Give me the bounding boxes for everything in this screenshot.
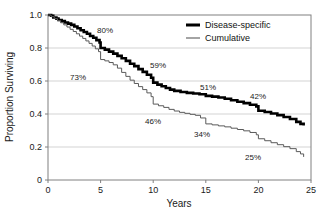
- series-line-cumulative: [48, 15, 304, 157]
- percent-annotation: 34%: [194, 130, 210, 139]
- percent-annotation: 80%: [97, 26, 113, 35]
- legend-label[interactable]: Cumulative: [205, 33, 250, 43]
- y-tick-label: 0.2: [29, 142, 42, 152]
- y-tick-label: 1.0: [29, 10, 42, 20]
- x-tick-label: 5: [98, 185, 103, 195]
- chart-canvas: 00.20.40.60.81.0 0510152025 80%73%59%51%…: [0, 0, 329, 212]
- x-tick-label: 25: [306, 185, 316, 195]
- plot-frame: [48, 15, 311, 180]
- y-axis-ticks: 00.20.40.60.81.0: [29, 10, 48, 185]
- legend-label[interactable]: Disease-specific: [205, 20, 271, 30]
- x-axis-ticks: 0510152025: [45, 180, 316, 195]
- x-tick-label: 0: [45, 185, 50, 195]
- y-tick-label: 0.6: [29, 76, 42, 86]
- y-tick-label: 0.8: [29, 43, 42, 53]
- gridlines: [48, 48, 311, 147]
- y-tick-label: 0.4: [29, 109, 42, 119]
- percent-annotation: 73%: [70, 73, 86, 82]
- x-axis-title: Years: [166, 198, 191, 209]
- x-tick-label: 10: [148, 185, 158, 195]
- percent-annotation: 51%: [200, 83, 216, 92]
- x-tick-label: 20: [253, 185, 263, 195]
- percent-annotation: 25%: [245, 153, 261, 162]
- survival-chart-figure: 00.20.40.60.81.0 0510152025 80%73%59%51%…: [0, 0, 329, 212]
- chart-legend[interactable]: Disease-specificCumulative: [186, 20, 271, 43]
- percent-annotation: 46%: [145, 117, 161, 126]
- y-tick-label: 0: [37, 175, 42, 185]
- percent-annotation: 42%: [250, 92, 266, 101]
- series-lines: [48, 15, 304, 157]
- y-axis-title: Proportion Surviving: [4, 52, 15, 142]
- x-tick-label: 15: [201, 185, 211, 195]
- percent-annotation: 59%: [150, 61, 166, 70]
- series-line-disease-specific: [48, 15, 304, 126]
